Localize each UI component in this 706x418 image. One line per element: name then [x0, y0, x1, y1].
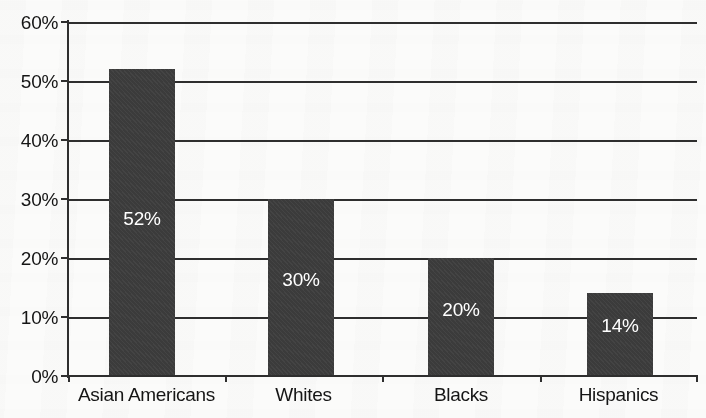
y-tick-label-50: 50%	[0, 72, 58, 91]
bar-value-whites: 30%	[268, 270, 334, 289]
y-axis-tick-labels: 60% 50% 40% 30% 20% 10% 0%	[0, 0, 58, 418]
x-tick-mark-3	[540, 375, 542, 382]
bar-chart: 60% 50% 40% 30% 20% 10% 0% 52% 30% 20% 1…	[0, 0, 706, 418]
gridline-60	[68, 22, 697, 24]
bar-value-blacks: 20%	[428, 300, 494, 319]
y-tick-label-60: 60%	[0, 13, 58, 32]
x-tick-mark-0	[68, 375, 70, 382]
bar-value-asian-americans: 52%	[109, 209, 175, 228]
x-category-label-asian-americans: Asian Americans	[68, 385, 225, 404]
x-category-label-whites: Whites	[225, 385, 382, 404]
y-tick-label-40: 40%	[0, 131, 58, 150]
x-tick-mark-4	[696, 375, 698, 382]
bar-value-hispanics: 14%	[587, 316, 653, 335]
x-category-label-blacks: Blacks	[382, 385, 540, 404]
y-tick-label-0: 0%	[0, 367, 58, 386]
y-tick-label-20: 20%	[0, 249, 58, 268]
plot-area: 52% 30% 20% 14%	[68, 22, 697, 376]
x-tick-mark-1	[225, 375, 227, 382]
x-tick-mark-2	[382, 375, 384, 382]
x-category-label-hispanics: Hispanics	[540, 385, 697, 404]
y-tick-label-30: 30%	[0, 190, 58, 209]
y-tick-label-10: 10%	[0, 308, 58, 327]
